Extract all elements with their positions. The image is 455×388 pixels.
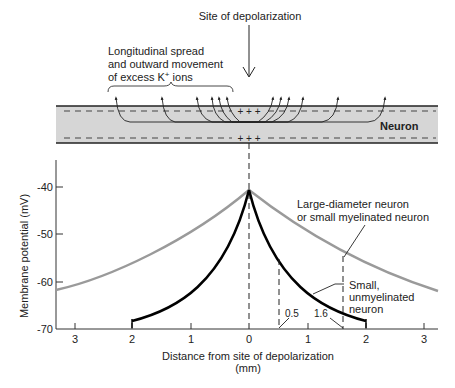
site-of-depolarization-label: Site of depolarization <box>199 10 302 22</box>
marker-0-5-label: 0.5 <box>285 308 299 319</box>
y-axis-label: Membrane potential (mV) <box>18 194 30 318</box>
x-tick-label: 3 <box>421 333 427 345</box>
annotation-line-3-suffix: ions <box>170 71 194 83</box>
marker-0-5-leader <box>279 318 289 328</box>
y-tick-label: -50 <box>37 228 53 240</box>
x-tick-label: 2 <box>129 333 135 345</box>
x-tick-label: 3 <box>72 333 78 345</box>
legend-large-line-1: Large-diameter neuron <box>297 198 409 210</box>
annotation-line-2: and outward movement <box>108 58 223 70</box>
y-axis: -40 -50 -60 -70 <box>37 160 63 335</box>
marker-1-6-leader <box>330 318 343 328</box>
legend-small-leader <box>313 284 344 294</box>
legend-large-leader <box>344 225 365 257</box>
x-axis-units: (mm) <box>235 362 261 374</box>
y-tick-label: -40 <box>37 181 53 193</box>
legend-small-line-3: neuron <box>349 303 383 315</box>
x-tick-label: 1 <box>305 333 311 345</box>
x-tick-label: 1 <box>188 333 194 345</box>
legend-small-line-1: Small, <box>349 279 380 291</box>
plus-charges-outer: + + + <box>237 106 260 117</box>
down-arrow-icon <box>243 25 255 77</box>
annotation-line-1: Longitudinal spread <box>108 45 204 57</box>
depolarization-diagram: Site of depolarization Longitudinal spre… <box>0 0 455 388</box>
x-tick-label: 2 <box>363 333 369 345</box>
x-tick-label: 0 <box>246 333 252 345</box>
y-tick-label: -60 <box>37 276 53 288</box>
neuron-band: + + + + + + Neuron <box>56 106 438 144</box>
neuron-label: Neuron <box>380 120 419 132</box>
x-axis: 3 2 1 0 1 2 3 <box>56 323 438 345</box>
plus-charges-inner: + + + <box>237 133 260 144</box>
marker-1-6-label: 1.6 <box>314 308 328 319</box>
brace-icon <box>108 82 233 92</box>
y-tick-label: -70 <box>37 323 53 335</box>
annotation-line-3-prefix: of excess K <box>108 71 166 83</box>
x-axis-label: Distance from site of depolarization <box>162 350 334 362</box>
legend-small-line-2: unmyelinated <box>349 291 414 303</box>
legend-large-line-2: or small myelinated neuron <box>297 211 429 223</box>
annotation-line-3: of excess K+ ions <box>108 70 193 83</box>
